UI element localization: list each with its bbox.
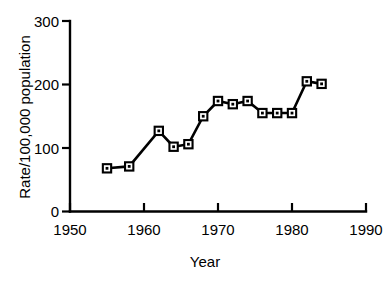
- data-point-marker-core: [172, 145, 175, 148]
- data-series-line: [107, 81, 322, 168]
- x-tick-label-1950: 1950: [53, 221, 86, 238]
- data-point-marker-core: [276, 112, 279, 115]
- data-point-marker-core: [261, 112, 264, 115]
- data-point-marker-core: [305, 80, 308, 83]
- data-point-marker-core: [320, 82, 323, 85]
- data-point-marker-core: [187, 143, 190, 146]
- y-tick-label-200: 200: [34, 76, 59, 93]
- x-axis-title: Year: [190, 253, 220, 270]
- data-point-marker-core: [246, 100, 249, 103]
- data-point-marker-core: [217, 100, 220, 103]
- chart-figure: Rate/100,000 population 300 200 100 0 19…: [0, 0, 392, 281]
- x-tick-label-1960: 1960: [127, 221, 160, 238]
- data-point-marker-core: [231, 103, 234, 106]
- x-tick-label-1970: 1970: [201, 221, 234, 238]
- data-point-marker-core: [157, 129, 160, 132]
- data-point-marker-core: [291, 112, 294, 115]
- y-tick-label-300: 300: [34, 13, 59, 30]
- data-point-marker-core: [128, 165, 131, 168]
- y-axis-title: Rate/100,000 population: [16, 35, 33, 198]
- y-tick-label-100: 100: [34, 140, 59, 157]
- line-chart-plot: Rate/100,000 population 300 200 100 0 19…: [0, 0, 392, 281]
- y-tick-label-0: 0: [51, 203, 59, 220]
- x-tick-label-1990: 1990: [349, 221, 382, 238]
- x-tick-label-1980: 1980: [275, 221, 308, 238]
- data-point-marker-core: [106, 167, 109, 170]
- data-point-marker-core: [202, 115, 205, 118]
